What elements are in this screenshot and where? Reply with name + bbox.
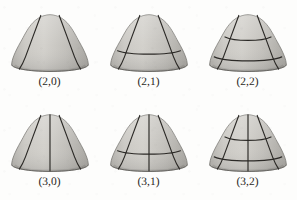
mode-surface-plot (4, 3, 96, 77)
mode-panel: (2,1) (99, 0, 198, 100)
mode-label: (3,1) (137, 176, 159, 189)
mode-label: (2,2) (236, 76, 258, 89)
bell-surface-svg (4, 103, 96, 177)
bell-surface-svg (103, 3, 195, 77)
mode-panel: (2,2) (198, 0, 297, 100)
mode-label: (3,0) (38, 176, 60, 189)
bell-surface-svg (202, 3, 294, 77)
mode-surface-plot (103, 103, 195, 177)
bell-surface-svg (4, 3, 96, 77)
mode-surface-plot (202, 3, 294, 77)
mode-shape-figure: (2,0) (0, 0, 297, 200)
mode-label: (2,1) (137, 76, 159, 89)
mode-surface-plot (202, 103, 294, 177)
mode-panel: (3,2) (198, 100, 297, 200)
mode-panel: (2,0) (0, 0, 99, 100)
bell-surface-svg (202, 103, 294, 177)
mode-shape-grid: (2,0) (0, 0, 297, 200)
bell-surface-svg (103, 103, 195, 177)
mode-label: (2,0) (38, 76, 60, 89)
mode-surface-plot (4, 103, 96, 177)
mode-label: (3,2) (236, 176, 258, 189)
mode-panel: (3,1) (99, 100, 198, 200)
mode-surface-plot (103, 3, 195, 77)
mode-panel: (3,0) (0, 100, 99, 200)
